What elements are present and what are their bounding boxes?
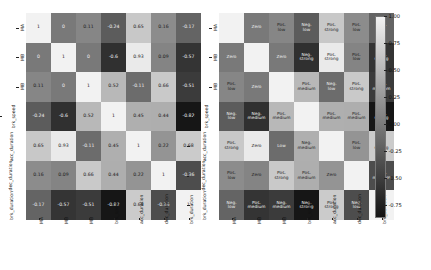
heatmap-panel-categorical: ZeroPos.lowNeg.lowPos.strongPos.lowNeg.l… [214,0,371,270]
heatmap-cell: -0.57 [51,190,76,220]
heatmap-cell-value: -0.6 [58,114,69,119]
heatmap-cell: 0.45 [126,102,151,132]
heatmap-cell: 0.45 [101,131,126,161]
heatmap-cell: 0.44 [151,102,176,132]
colorbar-tick-mark [384,178,387,179]
y-axis-tick-mark [16,87,19,88]
x-axis-tick-mark [357,218,358,221]
colorbar-tick-label: 1.00 [389,13,401,19]
heatmap-cell-label: Pos.medium [297,171,317,180]
heatmap-cell: 1 [101,102,126,132]
heatmap-cell: 1 [26,13,51,43]
heatmap-cell: Pos.medium [244,190,269,220]
colorbar-tick-mark [384,124,387,125]
heatmap-cell-value: 1 [111,114,116,119]
heatmap-cell: Pos.medium [294,161,319,191]
heatmap-cell-label: Pos.strong [274,171,290,180]
colorbar-tick-labels: 1.000.750.500.250.00-0.25-0.50-0.75 [384,16,430,216]
colorbar-tick-3: 0.25 [384,94,400,100]
heatmap-cell: 0.22 [151,131,176,161]
heatmap-cell-label: Pos.low [351,141,362,150]
figure-canvas: 100.11-0.240.650.16-0.17010-0.60.930.09-… [0,0,431,270]
y-axis-tick-mark [187,205,190,206]
heatmap-cell: 1 [76,72,101,102]
colorbar-tick-label: -0.50 [389,175,402,181]
y-axis-tick-label: MB [213,83,218,90]
heatmap-cell-value: 0.11 [32,84,44,89]
colorbar-tick-0: 1.00 [384,13,400,19]
x-axis-tick-label: brk_speed [114,200,119,224]
colorbar-tick-2: 0.50 [384,67,400,73]
heatmap-cell [294,102,319,132]
heatmap-cell-value: -0.6 [108,55,119,60]
heatmap-cell: Pos.medium [344,102,369,132]
heatmap-cell: 0 [51,72,76,102]
y-axis-tick-right_panel-3: brk_speed [195,102,219,132]
colorbar-tick-1: 0.75 [384,40,400,46]
heatmap-cell-value: 0.45 [107,144,119,149]
heatmap-cell: Pos.medium [294,72,319,102]
y-axis-tick-label: dec_duration [202,161,207,191]
heatmap-cell: Neg.medium [269,190,294,220]
heatmap-cell-label: Zero [250,25,262,30]
colorbar-tick-label: 0.25 [389,94,401,100]
heatmap-cell-value: 0.93 [132,55,144,60]
heatmap-cell: 0.52 [76,102,101,132]
heatmap-cell-label: Pos.medium [347,112,367,121]
heatmap-cell-value: 0.45 [132,114,144,119]
heatmap-cell-label: Neg.strong [299,53,315,62]
heatmap-cell-label: Neg.low [225,112,237,121]
heatmap-cell-value: -0.17 [181,25,195,30]
colorbar-tick-mark [384,151,387,152]
y-axis-tick-mark [187,176,190,177]
heatmap-cell: -0.11 [126,72,151,102]
heatmap-cell: 0.09 [151,43,176,73]
heatmap-cell [244,43,269,73]
y-axis-tick-right_panel-2: MB [212,72,219,102]
y-axis-tick-mark [209,28,212,29]
heatmap-cell: -0.17 [26,190,51,220]
x-axis-tick-mark [232,218,233,221]
y-axis-tick-label: MB [20,54,25,61]
heatmap-cell [319,131,344,161]
heatmap-cell: Zero [319,161,344,191]
heatmap-cell-value: 0 [86,55,91,60]
colorbar-tick-4: 0.00 [384,121,400,127]
heatmap-cell-value: 0.52 [107,84,119,89]
heatmap-cell-label: Low [276,144,287,149]
heatmap-cell-label: Pos.low [226,82,237,91]
heatmap-cell: 0 [26,43,51,73]
heatmap-cell-label: Pos.low [226,171,237,180]
heatmap-cell: 0.16 [151,13,176,43]
x-axis-tick-mark [164,218,165,221]
x-axis-tick-mark [257,218,258,221]
heatmap-cell-value: 1 [136,144,141,149]
heatmap-cell: 0.44 [101,161,126,191]
heatmap-cell: Neg.low [294,13,319,43]
y-axis-tick-left_panel-6: brk_duration [0,190,26,220]
y-axis-tick-right_panel-5: dec_duration [189,161,219,191]
colorbar-tick-mark [384,43,387,44]
heatmap-cell: 1 [51,43,76,73]
heatmap-cell-label: Pos.medium [322,112,342,121]
heatmap-cell-label: Zero [325,173,337,178]
y-axis-tick-right_panel-0: MA [212,13,219,43]
heatmap-cell [219,13,244,43]
heatmap-cell: Pos.low [344,13,369,43]
heatmap-cell: Zero [244,131,269,161]
heatmap-cell-label: Zero [250,144,262,149]
colorbar-tick-label: 0.00 [389,121,401,127]
heatmap-cell: Zero [269,43,294,73]
heatmap-cell-label: Pos.low [351,53,362,62]
heatmap-cell: 0 [51,13,76,43]
heatmap-cell-value: -0.57 [181,55,195,60]
heatmap-cell-value: 0.09 [57,173,69,178]
heatmap-cell: Pos.low [344,131,369,161]
heatmap-cell: 0.93 [51,131,76,161]
x-axis-tick-mark [89,218,90,221]
heatmap-cell-label: Pos.strong [349,82,365,91]
heatmap-cell-value: 0.66 [82,173,94,178]
heatmap-cell-value: 0 [61,84,66,89]
heatmap-cell-value: 0.11 [82,25,94,30]
heatmap-cell [269,72,294,102]
